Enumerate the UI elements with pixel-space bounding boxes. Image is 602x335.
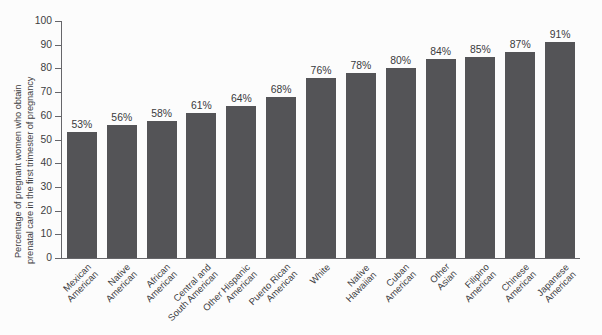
bar-group[interactable]: 53% (67, 21, 97, 258)
y-tick-mark (55, 140, 62, 141)
bar-group[interactable]: 80% (386, 21, 416, 258)
y-tick-label-text: 80 (28, 63, 52, 73)
x-axis-line (61, 258, 580, 259)
y-tick-label-text: 50 (28, 135, 52, 145)
bar-group[interactable]: 68% (266, 21, 296, 258)
y-tick-mark (55, 92, 62, 93)
y-tick-label-text: 40 (28, 158, 52, 168)
y-tick-mark (55, 187, 62, 188)
bar-group[interactable]: 56% (107, 21, 137, 258)
bar-value-label: 58% (151, 108, 172, 119)
bar-group[interactable]: 61% (186, 21, 216, 258)
bar-value-label: 64% (231, 93, 252, 104)
y-tick-label-text: 0 (28, 253, 52, 263)
bar-group[interactable]: 84% (426, 21, 456, 258)
x-axis-category-label: Puerto RicanAmerican (247, 262, 300, 315)
x-axis-category-label: ChineseAmerican (496, 262, 539, 305)
bar-value-label: 56% (111, 112, 132, 123)
bar[interactable] (147, 121, 177, 258)
bar[interactable] (266, 97, 296, 258)
bar-value-label: 85% (470, 44, 491, 55)
y-tick-label-text: 70 (28, 87, 52, 97)
bar-group[interactable]: 58% (147, 21, 177, 258)
x-axis-category-label: MexicanAmerican (58, 262, 101, 305)
y-tick-mark (55, 21, 62, 22)
bar[interactable] (545, 42, 575, 258)
y-tick-mark (55, 234, 62, 235)
bar-value-label: 87% (510, 39, 531, 50)
bar-group[interactable]: 76% (306, 21, 336, 258)
bar[interactable] (107, 125, 137, 258)
bar-value-label: 53% (72, 119, 93, 130)
bar-chart: Percentage of pregnant women who obtain … (0, 0, 602, 335)
bar-value-label: 61% (191, 100, 212, 111)
y-tick-mark (55, 68, 62, 69)
bar-group[interactable]: 87% (505, 21, 535, 258)
x-axis-category-label-line-1: White (308, 262, 332, 286)
x-axis-category-label: NativeAmerican (97, 262, 140, 305)
bar-group[interactable]: 85% (465, 21, 495, 258)
y-tick-label-text: 90 (28, 40, 52, 50)
bar[interactable] (306, 78, 336, 258)
y-tick-label-text: 20 (28, 206, 52, 216)
x-axis-category-label: FilipinoAmerican (456, 262, 499, 305)
y-tick-mark (55, 116, 62, 117)
bar[interactable] (426, 59, 456, 258)
bar-group[interactable]: 64% (226, 21, 256, 258)
bar-group[interactable]: 91% (545, 21, 575, 258)
bar[interactable] (346, 73, 376, 258)
x-axis-category-label: NativeHawaiian (337, 262, 379, 304)
bar-value-label: 76% (311, 65, 332, 76)
x-axis-category-label: OtherAsian (428, 262, 459, 293)
bar-value-label: 84% (430, 46, 451, 57)
bar[interactable] (505, 52, 535, 258)
bar[interactable] (186, 113, 216, 258)
y-tick-mark (55, 258, 62, 259)
bar-value-label: 80% (390, 55, 411, 66)
x-axis-category-label: White (308, 262, 332, 286)
y-tick-mark (55, 45, 62, 46)
bar[interactable] (386, 68, 416, 258)
y-tick-label-text: 100 (28, 16, 52, 26)
y-tick-label-text: 30 (28, 182, 52, 192)
y-tick-mark (55, 163, 62, 164)
x-axis-category-label: JapaneseAmerican (535, 262, 578, 305)
plot-area: 53%56%58%61%64%68%76%78%80%84%85%87%91% (62, 21, 580, 258)
y-tick-label-text: 60 (28, 111, 52, 121)
y-tick-label-text: 10 (28, 229, 52, 239)
bar[interactable] (67, 132, 97, 258)
bar-value-label: 68% (271, 84, 292, 95)
bar[interactable] (465, 57, 495, 258)
y-axis-title-line-1: Percentage of pregnant women who obtain (13, 85, 23, 258)
bar-group[interactable]: 78% (346, 21, 376, 258)
bar-value-label: 91% (550, 29, 571, 40)
y-tick-mark (55, 211, 62, 212)
x-axis-category-label: CubanAmerican (376, 262, 419, 305)
bar-value-label: 78% (350, 60, 371, 71)
bar[interactable] (226, 106, 256, 258)
